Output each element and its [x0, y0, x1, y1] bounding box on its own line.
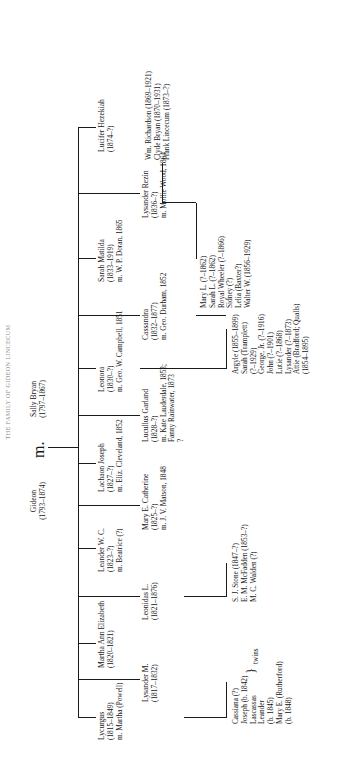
person-leander-wc: Leander W. C. (1823–?) m. Beatrice (?): [98, 528, 124, 572]
root-drop-line: [48, 447, 78, 448]
person-lysander-rezin: Lysander Rezin (1836–?) m. Mollie Wood, …: [142, 152, 168, 218]
children-of-leonora: Argyle (1855–1899) Sarah (Tramplett) (?–…: [232, 303, 311, 374]
tick-leander: [78, 548, 96, 549]
tick-lysander-rezin: [78, 193, 140, 194]
children-of-cassandra: Mary L. (?–1862) Sarah L. (?–1862) Royal…: [200, 236, 253, 308]
person-mary-e-catherine: Mary E. Catherine (1825–?) m. J. V. Mats…: [142, 466, 168, 530]
tick-lysander-m: [78, 679, 140, 680]
connector-leonora-children-v: [140, 368, 226, 369]
tick-lycurgus: [78, 717, 96, 718]
person-leonora: Leonora (1830–?) m. Geo. W. Campbell, 18…: [98, 311, 124, 392]
person-sarah-matilda: Sarah Matilda (1833–1919) m. W. P. Doran…: [98, 220, 124, 282]
chart-caption: THE FAMILY OF GIDEON LINCECUM: [4, 0, 11, 764]
person-lucifer-hezekiah: Lucifer Hezekiah (1874–?): [98, 99, 116, 152]
person-leonidas-l: Leonidas L. (1821–1876): [142, 582, 160, 620]
person-lysander-m-dates: (1817–1832): [151, 664, 160, 702]
person-lachaon-joseph: Lachaon Joseph (1827–?) m. Eliz. Clevela…: [98, 419, 124, 492]
tick-cassandra: [78, 315, 140, 316]
root-mother: Sally Bryan (1797–1867): [30, 360, 48, 438]
person-lysander-rezin-spouse: m. Mollie Wood, 1864: [160, 152, 169, 218]
twins-label: twins: [252, 648, 261, 664]
connector-sarah-children-h1: [196, 203, 197, 259]
person-lycurgus: Lycurgus (1815–1849) m. Martha (Powell): [98, 683, 124, 740]
connector-leonora-children-h: [226, 329, 227, 369]
person-leander-spouse: m. Beatrice (?): [116, 528, 125, 572]
list-item: M. C. Walden (?): [250, 524, 259, 602]
connector-lycurgus-children-v: [184, 717, 226, 718]
sibling-spine: [78, 128, 79, 718]
connector-cassandra-children-v: [196, 315, 226, 316]
connector-leonidas-children-v: [184, 596, 226, 597]
tick-leonidas: [78, 596, 140, 597]
list-item: Frank Lincecum (1873–?): [163, 71, 172, 160]
list-item: Lascassas: [249, 695, 258, 724]
person-martha-ann-elizabeth: Martha Ann Elizabeth (1820–1821): [98, 601, 116, 668]
person-sarah-matilda-spouse: m. W. P. Doran, 1865: [116, 220, 125, 282]
tick-lucullus: [78, 415, 140, 416]
genealogy-chart: THE FAMILY OF GIDEON LINCECUM Gideon (17…: [0, 0, 350, 764]
list-item: (b. 1848): [285, 661, 294, 724]
person-mary-e-spouse: m. J. V. Matson, 1848: [160, 466, 169, 530]
person-cassandra: Cassandra (1832–1877) m. Geo. Durham, 18…: [142, 273, 168, 340]
tick-mary-e-catherine: [78, 505, 140, 506]
children-of-leonidas: S. J. Stone (1847–?) E. M. McFadden (185…: [232, 524, 258, 602]
person-lucullus-spouse3: ?: [177, 364, 186, 442]
person-cassandra-spouse: m. Geo. Durham, 1852: [160, 273, 169, 340]
root-marriage-symbol: m.: [30, 444, 49, 458]
root-father-dates: (1793–1874): [39, 466, 48, 536]
root-mother-dates: (1797–1867): [39, 360, 48, 438]
children-of-lycurgus: Cassiana (?) Joseph (b. 1842) Lascassas …: [232, 661, 293, 724]
connector-lycurgus-children-h: [226, 682, 227, 718]
person-lucullus-garland: Lucullus Garland (1828–?) m. Kate Lauder…: [142, 364, 185, 442]
person-leonora-spouse: m. Geo. W. Campbell, 1851: [116, 311, 125, 392]
tick-lucifer: [78, 127, 96, 128]
person-lycurgus-spouse: m. Martha (Powell): [116, 683, 125, 740]
person-lucullus-spouse2: Fanny Rainwater, 1873: [168, 364, 177, 442]
person-lysander-m: Lysander M. (1817–1832): [142, 664, 160, 702]
list-item: Walter W. (1856–1929): [244, 236, 253, 308]
person-lucifer-dates: (1874–?): [107, 99, 116, 152]
tick-leonora: [78, 368, 96, 369]
connector-leonidas-children-h: [226, 563, 227, 597]
tick-martha: [78, 643, 96, 644]
root-father: Gideon (1793–1874): [30, 466, 48, 536]
tick-lachaon: [78, 463, 96, 464]
twins-brace-icon: }: [244, 668, 257, 674]
list-item: (1854–1895): [302, 303, 311, 374]
tick-sarah-matilda: [78, 258, 96, 259]
children-of-sarah-matilda: Wm. Richardson (1869–1921) Clyde Bryan (…: [145, 71, 171, 160]
person-lachaon-spouse: m. Eliz. Cleveland, 1852: [116, 419, 125, 492]
person-martha-dates: (1820–1821): [107, 601, 116, 668]
connector-sarah-children-v: [162, 202, 196, 203]
connector-sarah-children-h2: [162, 163, 163, 203]
person-leonidas-dates: (1821–1876): [151, 582, 160, 620]
